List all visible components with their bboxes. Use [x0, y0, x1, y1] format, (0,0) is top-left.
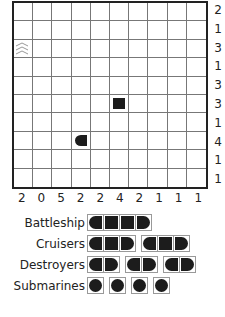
grid-cell-r3-c6[interactable]	[110, 40, 129, 58]
grid-cell-r4-c1[interactable]	[14, 58, 33, 76]
grid-cell-r4-c5[interactable]	[91, 58, 110, 76]
grid-cell-r1-c2[interactable]	[33, 3, 52, 21]
grid-cell-r7-c4[interactable]	[72, 113, 91, 131]
grid-cell-r2-c8[interactable]	[148, 21, 167, 39]
grid-cell-r5-c8[interactable]	[148, 77, 167, 95]
grid-cell-r3-c5[interactable]	[91, 40, 110, 58]
grid-cell-r9-c4[interactable]	[72, 150, 91, 168]
grid-cell-r9-c7[interactable]	[129, 150, 148, 168]
grid-cell-r1-c5[interactable]	[91, 3, 110, 21]
grid-cell-r10-c10[interactable]	[187, 169, 206, 187]
grid-cell-r10-c9[interactable]	[168, 169, 187, 187]
grid-cell-r8-c8[interactable]	[148, 132, 167, 150]
grid-cell-r9-c8[interactable]	[148, 150, 167, 168]
grid-cell-r5-c5[interactable]	[91, 77, 110, 95]
grid-cell-r9-c9[interactable]	[168, 150, 187, 168]
grid-cell-r6-c8[interactable]	[148, 95, 167, 113]
grid-cell-r6-c4[interactable]	[72, 95, 91, 113]
grid-cell-r2-c4[interactable]	[72, 21, 91, 39]
grid-cell-r10-c8[interactable]	[148, 169, 167, 187]
grid-cell-r1-c4[interactable]	[72, 3, 91, 21]
grid-cell-r8-c9[interactable]	[168, 132, 187, 150]
grid-cell-r4-c6[interactable]	[110, 58, 129, 76]
grid-cell-r1-c7[interactable]	[129, 3, 148, 21]
grid-cell-r3-c4[interactable]	[72, 40, 91, 58]
grid-cell-r3-c7[interactable]	[129, 40, 148, 58]
grid-cell-r3-c3[interactable]	[52, 40, 71, 58]
grid-cell-r8-c5[interactable]	[91, 132, 110, 150]
grid-cell-r9-c5[interactable]	[91, 150, 110, 168]
grid-cell-r5-c1[interactable]	[14, 77, 33, 95]
grid-cell-r5-c3[interactable]	[52, 77, 71, 95]
grid-cell-r10-c3[interactable]	[52, 169, 71, 187]
grid-cell-r7-c3[interactable]	[52, 113, 71, 131]
grid-cell-r7-c7[interactable]	[129, 113, 148, 131]
grid-cell-r2-c6[interactable]	[110, 21, 129, 39]
grid-cell-r2-c1[interactable]	[14, 21, 33, 39]
grid-cell-r2-c2[interactable]	[33, 21, 52, 39]
grid-cell-r4-c8[interactable]	[148, 58, 167, 76]
grid-cell-r8-c2[interactable]	[33, 132, 52, 150]
grid-cell-r7-c2[interactable]	[33, 113, 52, 131]
grid-cell-r5-c6[interactable]	[110, 77, 129, 95]
grid-cell-r7-c10[interactable]	[187, 113, 206, 131]
grid-cell-r2-c7[interactable]	[129, 21, 148, 39]
grid-cell-r7-c1[interactable]	[14, 113, 33, 131]
grid-cell-r9-c1[interactable]	[14, 150, 33, 168]
grid-cell-r8-c4[interactable]	[72, 132, 91, 150]
grid-cell-r2-c5[interactable]	[91, 21, 110, 39]
grid-cell-r5-c4[interactable]	[72, 77, 91, 95]
grid-cell-r3-c10[interactable]	[187, 40, 206, 58]
grid-cell-r6-c1[interactable]	[14, 95, 33, 113]
grid-cell-r1-c10[interactable]	[187, 3, 206, 21]
grid-cell-r6-c3[interactable]	[52, 95, 71, 113]
grid-cell-r4-c3[interactable]	[52, 58, 71, 76]
grid-cell-r8-c6[interactable]	[110, 132, 129, 150]
grid-cell-r4-c9[interactable]	[168, 58, 187, 76]
grid-cell-r4-c2[interactable]	[33, 58, 52, 76]
grid-cell-r10-c1[interactable]	[14, 169, 33, 187]
grid-cell-r7-c6[interactable]	[110, 113, 129, 131]
grid-cell-r9-c2[interactable]	[33, 150, 52, 168]
grid-cell-r4-c7[interactable]	[129, 58, 148, 76]
grid-cell-r9-c10[interactable]	[187, 150, 206, 168]
grid-cell-r4-c4[interactable]	[72, 58, 91, 76]
grid-cell-r3-c8[interactable]	[148, 40, 167, 58]
grid-cell-r9-c3[interactable]	[52, 150, 71, 168]
grid-cell-r7-c8[interactable]	[148, 113, 167, 131]
grid-cell-r6-c9[interactable]	[168, 95, 187, 113]
grid-cell-r10-c6[interactable]	[110, 169, 129, 187]
grid-cell-r1-c3[interactable]	[52, 3, 71, 21]
grid-cell-r6-c5[interactable]	[91, 95, 110, 113]
grid-cell-r8-c1[interactable]	[14, 132, 33, 150]
grid-cell-r9-c6[interactable]	[110, 150, 129, 168]
grid-cell-r3-c2[interactable]	[33, 40, 52, 58]
grid-cell-r6-c7[interactable]	[129, 95, 148, 113]
grid-cell-r7-c5[interactable]	[91, 113, 110, 131]
grid-cell-r1-c6[interactable]	[110, 3, 129, 21]
grid-cell-r3-c9[interactable]	[168, 40, 187, 58]
grid-cell-r8-c10[interactable]	[187, 132, 206, 150]
grid-cell-r1-c8[interactable]	[148, 3, 167, 21]
grid-cell-r2-c3[interactable]	[52, 21, 71, 39]
grid-cell-r7-c9[interactable]	[168, 113, 187, 131]
grid-cell-r8-c3[interactable]	[52, 132, 71, 150]
grid-cell-r10-c7[interactable]	[129, 169, 148, 187]
grid-cell-r6-c6[interactable]	[110, 95, 129, 113]
grid-cell-r1-c9[interactable]	[168, 3, 187, 21]
grid-cell-r6-c2[interactable]	[33, 95, 52, 113]
grid-cell-r5-c7[interactable]	[129, 77, 148, 95]
grid-cell-r2-c9[interactable]	[168, 21, 187, 39]
grid-cell-r8-c7[interactable]	[129, 132, 148, 150]
grid-cell-r5-c9[interactable]	[168, 77, 187, 95]
grid-cell-r5-c2[interactable]	[33, 77, 52, 95]
grid-cell-r10-c5[interactable]	[91, 169, 110, 187]
grid-cell-r10-c2[interactable]	[33, 169, 52, 187]
grid-cell-r10-c4[interactable]	[72, 169, 91, 187]
grid-cell-r4-c10[interactable]	[187, 58, 206, 76]
grid-cell-r6-c10[interactable]	[187, 95, 206, 113]
grid-cell-r1-c1[interactable]	[14, 3, 33, 21]
grid-cell-r3-c1[interactable]	[14, 40, 33, 58]
grid-cell-r5-c10[interactable]	[187, 77, 206, 95]
grid-cell-r2-c10[interactable]	[187, 21, 206, 39]
